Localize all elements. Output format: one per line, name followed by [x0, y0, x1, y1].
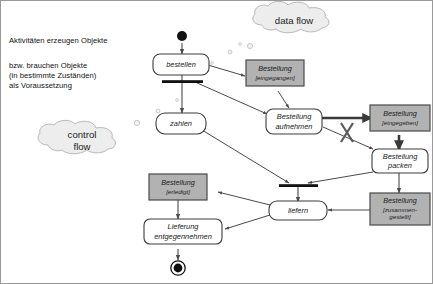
- diagram-canvas: Aktivitäten erzeugen Objekte bzw. brauch…: [0, 0, 433, 284]
- cloud-tail-bubble: [176, 99, 179, 102]
- join-bar: [279, 184, 318, 187]
- activity-zahlen[interactable]: [156, 113, 206, 134]
- fork-bar: [162, 80, 203, 83]
- edge-obj-eingegangen-to-aufnehmen: [278, 91, 289, 108]
- annotation-line-2: bzw. brauchen Objekte (in bestimmte Zust…: [9, 61, 96, 92]
- activity-lieferung-entgegennehmen[interactable]: [144, 219, 222, 244]
- edge-packen-to-join: [308, 172, 373, 183]
- activity-bestellen[interactable]: [153, 54, 209, 75]
- cloud-tail-bubble: [156, 109, 160, 113]
- cloud-tail-bubble: [228, 50, 232, 54]
- edge-liefern-to-entgegennehmen: [225, 215, 270, 229]
- cloud-tail-bubble: [211, 62, 214, 65]
- edge-zahlen-to-join: [197, 127, 289, 183]
- cloud-label-control-flow: control flow: [51, 129, 113, 152]
- end-node: [171, 261, 185, 275]
- activity-bestellung-packen[interactable]: [372, 149, 428, 173]
- activity-bestellung-aufnehmen[interactable]: [266, 109, 322, 134]
- cross-out-marker: [341, 123, 353, 142]
- cloud-tail-bubble: [247, 43, 252, 48]
- cloud-tail-bubble: [239, 43, 242, 46]
- edge-fork-to-aufnehmen: [195, 82, 267, 114]
- activity-liefern[interactable]: [269, 201, 327, 220]
- cloud-label-data-flow: data flow: [263, 15, 325, 27]
- object-bestellung-zusammengestellt[interactable]: [370, 193, 430, 225]
- object-bestellung-eingegangen[interactable]: [246, 60, 304, 86]
- edge-liefern-to-obj-erledigt: [218, 192, 270, 205]
- edge-bestellen-to-obj-eingegangen: [208, 65, 245, 76]
- object-bestellung-erledigt[interactable]: [149, 174, 207, 200]
- object-bestellung-eingegeben[interactable]: [370, 105, 430, 131]
- annotation-line-1: Aktivitäten erzeugen Objekte: [9, 36, 108, 46]
- start-node: [177, 31, 187, 41]
- cloud-tail-bubble: [134, 120, 139, 125]
